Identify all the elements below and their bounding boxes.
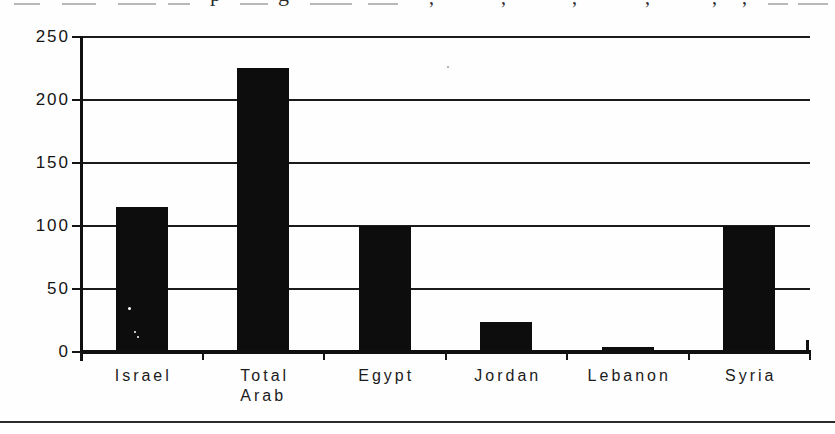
caption-fragment-comma: ,: [712, 0, 717, 7]
gridline-200: [81, 99, 810, 101]
caption-fragment-smudge: [14, 3, 40, 5]
bar-jordan: [480, 322, 532, 352]
bar-total-arab: [237, 68, 289, 352]
y-tick-label: 0: [24, 344, 70, 360]
category-label-lebanon: Lebanon: [567, 366, 689, 386]
caption-fragment-comma: ,: [429, 0, 434, 7]
category-label-israel: Israel: [81, 366, 203, 386]
caption-fragment-smudge: [62, 3, 96, 5]
gridline-50: [81, 288, 810, 290]
caption-fragment-letter: g: [278, 0, 289, 5]
y-tick-label: 250: [24, 29, 70, 45]
y-tick-label: 50: [24, 281, 70, 297]
x-tick: [566, 352, 568, 360]
caption-fragment-comma: ,: [572, 0, 577, 7]
y-axis-line: [80, 36, 83, 361]
category-label-total-arab: TotalArab: [203, 366, 325, 406]
y-tick-label: 100: [24, 218, 70, 234]
category-label-jordan: Jordan: [446, 366, 568, 386]
caption-fragment-comma: ,: [501, 0, 506, 7]
horizontal-rule: [0, 421, 835, 423]
scanned-page: pg,,,,,, 050100150200250 IsraelTotalArab…: [0, 0, 835, 434]
caption-fragment-smudge: [240, 3, 268, 5]
bar-syria: [723, 226, 775, 352]
caption-fragment-comma: ,: [742, 0, 747, 7]
gridline-100: [81, 225, 810, 227]
bar-israel: [116, 207, 168, 352]
caption-fragment-smudge: [118, 3, 156, 5]
caption-fragment-smudge: [768, 3, 788, 5]
category-label-syria: Syria: [689, 366, 811, 386]
clipped-caption-line: pg,,,,,,: [0, 0, 835, 8]
x-tick: [202, 352, 204, 360]
caption-fragment-smudge: [168, 3, 190, 5]
x-tick: [80, 352, 82, 360]
gridline-250: [81, 36, 810, 38]
scan-speck: [128, 307, 131, 310]
scan-speck: [447, 66, 449, 68]
scan-speck: [134, 331, 136, 333]
gridline-150: [81, 162, 810, 164]
caption-fragment-letter: p: [210, 0, 221, 5]
x-tick: [688, 352, 690, 360]
caption-fragment-smudge: [368, 3, 398, 5]
y-tick-label: 150: [24, 155, 70, 171]
scan-speck: [137, 336, 139, 338]
x-axis-end-tick: [806, 340, 809, 350]
caption-fragment-comma: ,: [645, 0, 650, 7]
bar-egypt: [359, 226, 411, 352]
y-tick-label: 200: [24, 92, 70, 108]
caption-fragment-smudge: [798, 3, 828, 5]
x-tick: [445, 352, 447, 360]
x-tick: [323, 352, 325, 360]
caption-fragment-smudge: [310, 3, 352, 5]
x-tick: [809, 352, 811, 360]
category-label-egypt: Egypt: [324, 366, 446, 386]
